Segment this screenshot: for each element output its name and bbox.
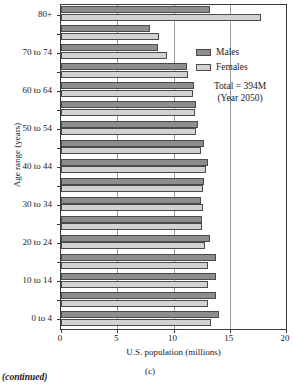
x-tick-label: 10 (158, 333, 188, 343)
bar-males (61, 101, 196, 108)
y-tick (57, 243, 61, 244)
y-tick-label: 60 to 64 (22, 86, 52, 95)
bar-males (61, 216, 202, 223)
x-tick-label: 20 (270, 333, 293, 343)
y-axis-tick-labels: 80+70 to 7460 to 6450 to 5440 to 4430 to… (0, 4, 56, 330)
bar-group (61, 25, 286, 44)
bar-females (61, 90, 193, 97)
bar-group (61, 178, 286, 197)
panel-caption: (c) (130, 366, 170, 376)
bar-group (61, 6, 286, 25)
bar-males (61, 159, 208, 166)
y-tick (57, 300, 61, 301)
y-tick (57, 129, 61, 130)
bar-group (61, 140, 286, 159)
y-tick-label: 80+ (38, 10, 52, 19)
bar-females (61, 300, 208, 307)
bar-females (61, 223, 202, 230)
y-tick (57, 148, 61, 149)
bar-females (61, 242, 205, 249)
y-tick-label: 20 to 24 (22, 238, 52, 247)
legend-swatch-males-icon (196, 49, 211, 56)
y-tick (57, 53, 61, 54)
y-tick (57, 205, 61, 206)
x-tick-label: 15 (214, 333, 244, 343)
x-tick-label: 5 (101, 333, 131, 343)
bar-males (61, 25, 150, 32)
bar-males (61, 178, 204, 185)
bar-males (61, 254, 216, 261)
bar-females (61, 319, 211, 326)
bar-females (61, 14, 261, 21)
bar-females (61, 185, 203, 192)
y-tick (57, 319, 61, 320)
bar-males (61, 63, 187, 70)
bar-males (61, 235, 210, 242)
y-tick (57, 34, 61, 35)
bar-group (61, 216, 286, 235)
bar-group (61, 197, 286, 216)
bar-males (61, 140, 204, 147)
y-tick (57, 15, 61, 16)
y-tick (57, 110, 61, 111)
chart-legend: Males Females (196, 46, 288, 76)
bar-group (61, 254, 286, 273)
bar-females (61, 52, 167, 59)
bar-group (61, 235, 286, 254)
y-tick (57, 281, 61, 282)
bar-females (61, 109, 195, 116)
x-axis-tick-labels: 05101520 (60, 333, 287, 345)
bar-group (61, 159, 286, 178)
y-tick (57, 167, 61, 168)
bar-males (61, 121, 198, 128)
y-tick-label: 40 to 44 (22, 162, 52, 171)
y-tick (57, 72, 61, 73)
bar-females (61, 71, 188, 78)
y-tick-label: 70 to 74 (22, 48, 52, 57)
y-tick (57, 224, 61, 225)
y-tick-label: 30 to 34 (22, 200, 52, 209)
bar-group (61, 121, 286, 140)
x-axis-title: U.S. population (millions) (60, 347, 287, 357)
y-tick (57, 91, 61, 92)
bar-females (61, 128, 196, 135)
annotation-year: (Year 2050) (190, 92, 290, 104)
bar-females (61, 262, 208, 269)
population-pyramid-figure: Age range (years) 80+70 to 7460 to 6450 … (0, 0, 293, 386)
bar-males (61, 311, 219, 318)
legend-item-males: Males (196, 46, 288, 58)
y-tick-label: 10 to 14 (22, 276, 52, 285)
bar-females (61, 281, 208, 288)
bar-group (61, 101, 286, 120)
bar-group (61, 311, 286, 330)
legend-item-females: Females (196, 61, 288, 73)
bar-males (61, 44, 158, 51)
bar-males (61, 82, 194, 89)
y-tick-label: 0 to 4 (31, 314, 52, 323)
y-tick-label: 50 to 54 (22, 124, 52, 133)
continued-caption: (continued) (2, 372, 47, 385)
bar-males (61, 197, 201, 204)
annotation-total: Total = 394M (190, 80, 290, 92)
bar-males (61, 6, 210, 13)
legend-label-males: Males (216, 47, 239, 57)
bar-females (61, 166, 206, 173)
bar-males (61, 273, 216, 280)
bar-females (61, 204, 203, 211)
chart-annotation: Total = 394M (Year 2050) (190, 80, 290, 104)
legend-swatch-females-icon (196, 64, 211, 71)
y-tick (57, 262, 61, 263)
bar-group (61, 273, 286, 292)
bar-females (61, 147, 201, 154)
bar-females (61, 33, 159, 40)
x-tick-label: 0 (45, 333, 75, 343)
bar-males (61, 292, 216, 299)
bar-group (61, 292, 286, 311)
y-tick (57, 186, 61, 187)
legend-label-females: Females (216, 62, 248, 72)
